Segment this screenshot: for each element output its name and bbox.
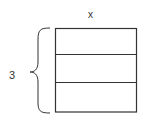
rectangle-diagram (0, 0, 142, 123)
curly-brace-icon (30, 28, 50, 113)
outer-rectangle (56, 29, 137, 113)
